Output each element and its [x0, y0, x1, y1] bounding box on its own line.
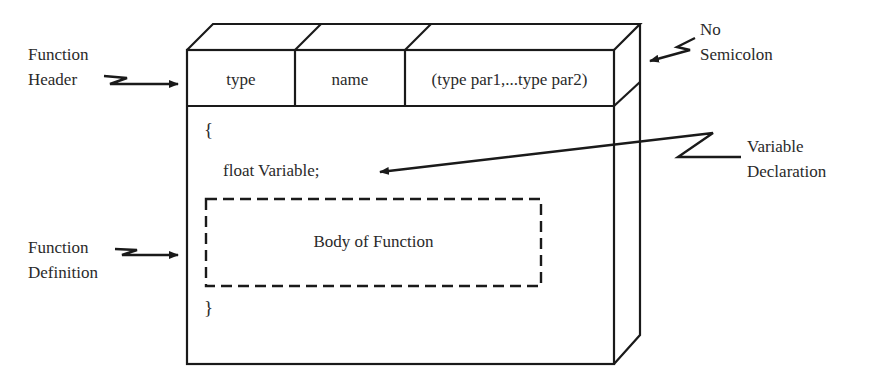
variable-declaration-arrow-icon: [380, 133, 741, 172]
annotation-line: Function: [28, 44, 88, 66]
side-header-divider: [614, 82, 640, 106]
body-of-function-label: Body of Function: [206, 232, 541, 252]
annotation-no-semicolon: No Semicolon: [700, 19, 773, 66]
annotation-line: Header: [28, 69, 88, 91]
header-cell-params: (type par1,...type par2): [405, 70, 614, 90]
function-definition-arrow-icon: [115, 249, 178, 255]
annotation-line: Variable: [747, 136, 826, 158]
no-semicolon-arrow-icon: [650, 38, 695, 61]
annotation-function-header: Function Header: [28, 44, 88, 91]
annotation-line: No: [700, 19, 773, 41]
top-divider-1: [295, 24, 321, 50]
top-face: [187, 24, 640, 50]
annotation-line: Function: [28, 237, 98, 259]
top-divider-2: [405, 24, 431, 50]
close-brace: }: [204, 297, 213, 319]
function-header-arrow-icon: [104, 76, 178, 84]
annotation-variable-declaration: Variable Declaration: [747, 136, 826, 183]
annotation-line: Semicolon: [700, 44, 773, 66]
annotation-line: Definition: [28, 262, 98, 284]
annotation-line: Declaration: [747, 161, 826, 183]
front-face: [187, 50, 614, 364]
header-cell-type: type: [187, 70, 295, 90]
annotation-function-definition: Function Definition: [28, 237, 98, 284]
variable-declaration-code: float Variable;: [223, 160, 319, 182]
open-brace: {: [204, 119, 213, 141]
side-face: [614, 24, 640, 364]
header-cell-name: name: [295, 70, 405, 90]
